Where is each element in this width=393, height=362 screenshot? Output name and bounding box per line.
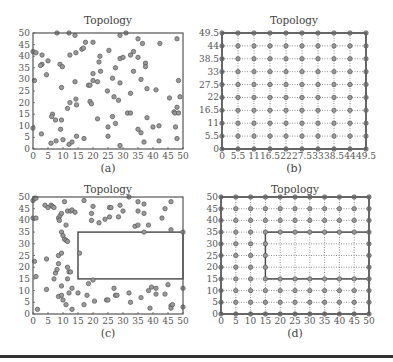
svg-text:30: 30 xyxy=(117,316,129,326)
tick-labels: 0510152025303540455005101520253035404550 xyxy=(207,192,375,326)
svg-text:0: 0 xyxy=(30,316,36,326)
svg-text:30: 30 xyxy=(19,74,31,84)
data-points xyxy=(220,31,368,151)
grid-lines xyxy=(221,197,369,314)
panel-c-plot: 0510152025303540455005101520253035404550 xyxy=(0,175,196,340)
obstacle-rect xyxy=(78,232,183,279)
svg-text:0: 0 xyxy=(218,316,224,326)
svg-text:25: 25 xyxy=(102,316,114,326)
svg-text:27.5: 27.5 xyxy=(292,151,312,161)
svg-text:16.5: 16.5 xyxy=(260,151,280,161)
svg-text:10: 10 xyxy=(57,151,69,161)
svg-text:5: 5 xyxy=(24,297,30,307)
data-points xyxy=(31,31,182,148)
svg-text:40: 40 xyxy=(19,51,31,61)
svg-text:20: 20 xyxy=(274,316,286,326)
svg-text:5: 5 xyxy=(45,151,51,161)
svg-text:35: 35 xyxy=(19,63,31,73)
svg-text:20: 20 xyxy=(87,151,99,161)
svg-text:10: 10 xyxy=(19,286,31,296)
svg-text:35: 35 xyxy=(19,227,31,237)
svg-text:5.5: 5.5 xyxy=(205,131,220,141)
svg-text:0: 0 xyxy=(219,151,225,161)
tick-labels: 0510152025303540455005101520253035404550 xyxy=(19,28,189,161)
svg-text:50: 50 xyxy=(19,192,31,202)
svg-text:22: 22 xyxy=(280,151,291,161)
svg-text:45: 45 xyxy=(162,316,174,326)
svg-text:0: 0 xyxy=(24,144,30,154)
svg-text:25: 25 xyxy=(19,86,31,96)
svg-text:30: 30 xyxy=(19,239,31,249)
svg-text:5: 5 xyxy=(212,297,218,307)
panel-b-caption: (b) xyxy=(222,162,366,175)
svg-text:0: 0 xyxy=(212,309,218,319)
svg-text:50: 50 xyxy=(19,28,31,38)
svg-text:11: 11 xyxy=(208,118,219,128)
panel-a-plot: 0510152025303540455005101520253035404550 xyxy=(0,0,196,175)
svg-text:25: 25 xyxy=(102,151,114,161)
svg-text:50: 50 xyxy=(177,316,189,326)
svg-text:30: 30 xyxy=(304,316,316,326)
svg-text:40: 40 xyxy=(147,316,159,326)
svg-text:50: 50 xyxy=(177,151,189,161)
svg-text:5: 5 xyxy=(24,132,30,142)
svg-text:35: 35 xyxy=(207,227,219,237)
grid-lines xyxy=(222,33,366,149)
panel-d-caption: (d) xyxy=(221,327,369,340)
svg-text:45: 45 xyxy=(207,204,219,214)
svg-text:40: 40 xyxy=(207,215,219,225)
svg-text:0: 0 xyxy=(30,151,36,161)
axes-frame xyxy=(33,197,183,314)
svg-text:25: 25 xyxy=(19,251,31,261)
svg-text:20: 20 xyxy=(19,262,31,272)
svg-text:30: 30 xyxy=(117,151,129,161)
svg-text:25: 25 xyxy=(207,251,219,261)
svg-text:45: 45 xyxy=(19,204,31,214)
obstacle-rect xyxy=(265,232,369,279)
panel-a-caption: (a) xyxy=(33,162,183,175)
data-points xyxy=(31,195,185,312)
svg-text:10: 10 xyxy=(19,121,31,131)
svg-text:20: 20 xyxy=(87,316,99,326)
svg-text:10: 10 xyxy=(245,316,257,326)
panel-d-plot: 0510152025303540455005101520253035404550 xyxy=(196,175,393,340)
bottom-rule xyxy=(0,355,393,358)
svg-text:20: 20 xyxy=(207,262,219,272)
svg-text:15: 15 xyxy=(19,274,31,284)
svg-text:22: 22 xyxy=(208,92,219,102)
svg-text:45: 45 xyxy=(19,40,31,50)
svg-text:50: 50 xyxy=(207,192,219,202)
svg-text:27.5: 27.5 xyxy=(199,80,219,90)
svg-text:35: 35 xyxy=(319,316,331,326)
svg-text:44: 44 xyxy=(208,41,220,51)
svg-text:0: 0 xyxy=(213,144,219,154)
svg-text:40: 40 xyxy=(147,151,159,161)
svg-text:38.5: 38.5 xyxy=(324,151,344,161)
svg-text:40: 40 xyxy=(334,316,346,326)
svg-text:45: 45 xyxy=(348,316,360,326)
svg-text:15: 15 xyxy=(72,151,84,161)
svg-text:5: 5 xyxy=(233,316,239,326)
svg-text:5.5: 5.5 xyxy=(231,151,246,161)
svg-text:44: 44 xyxy=(344,151,356,161)
svg-text:38.5: 38.5 xyxy=(199,54,219,64)
panel-b-plot: 05.51116.52227.53338.54449.505.51116.522… xyxy=(196,0,393,175)
svg-text:20: 20 xyxy=(19,98,31,108)
svg-text:0: 0 xyxy=(24,309,30,319)
svg-text:30: 30 xyxy=(207,239,219,249)
svg-text:33: 33 xyxy=(208,67,220,77)
svg-text:25: 25 xyxy=(289,316,301,326)
svg-text:15: 15 xyxy=(260,316,272,326)
svg-text:11: 11 xyxy=(248,151,259,161)
svg-text:40: 40 xyxy=(19,215,31,225)
svg-text:50: 50 xyxy=(363,316,375,326)
svg-text:15: 15 xyxy=(19,109,31,119)
svg-text:33: 33 xyxy=(312,151,324,161)
svg-text:15: 15 xyxy=(72,316,84,326)
svg-text:10: 10 xyxy=(207,286,219,296)
svg-text:10: 10 xyxy=(57,316,69,326)
svg-text:49.5: 49.5 xyxy=(356,151,376,161)
svg-text:15: 15 xyxy=(207,274,219,284)
svg-text:35: 35 xyxy=(132,151,144,161)
axes-frame xyxy=(222,33,366,149)
